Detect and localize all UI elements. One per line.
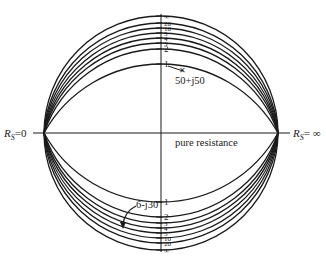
- left-label-rs-zero: RS=0: [3, 127, 27, 142]
- resistance-circle-diagram: ∞201054321123451020∞ RS=0 RS= ∞ pure res…: [0, 0, 326, 263]
- pure-resistance-label: pure resistance: [175, 137, 238, 148]
- scale-label-lower-7: ∞: [164, 247, 169, 255]
- marker-50-j50: ✕: [179, 66, 186, 75]
- scale-label-upper-6: 2: [164, 44, 169, 54]
- right-label-rs-infinity: RS= ∞: [292, 127, 321, 142]
- annotation-6-j30: 6-j30: [136, 199, 158, 210]
- annotation-50-j50: 50+j50: [175, 75, 205, 86]
- scale-label-upper-7: 1: [164, 59, 169, 69]
- scale-label-lower-0: 1: [164, 197, 169, 207]
